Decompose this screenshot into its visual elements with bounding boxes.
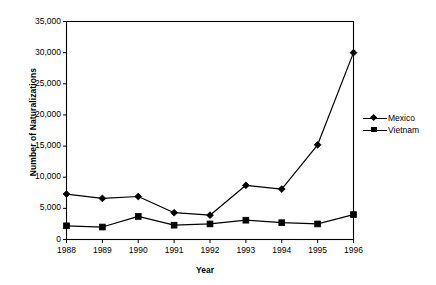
chart-legend: MexicoVietnam	[363, 112, 419, 136]
x-tick-label: 1990	[118, 246, 158, 255]
x-tick-label: 1992	[190, 246, 230, 255]
legend-label: Mexico	[387, 113, 415, 123]
y-tick-label: 10,000	[17, 172, 61, 181]
data-point-square: Vietnam 1996: 4,000	[351, 212, 357, 218]
x-tick-label: 1994	[262, 246, 302, 255]
x-tick-label: 1993	[226, 246, 266, 255]
data-point-square: Vietnam 1992: 2,500	[207, 221, 213, 227]
data-point-square: Vietnam 1995: 2,500	[315, 221, 321, 227]
data-point-diamond: Mexico 1996: 30,000	[350, 49, 357, 56]
naturalizations-line-chart: Number of Naturalizations 05,00010,00015…	[0, 0, 436, 285]
x-tick-label: 1989	[82, 246, 122, 255]
y-tick-label: 35,000	[17, 17, 61, 26]
legend-item-vietnam[interactable]: Vietnam	[363, 124, 419, 136]
series-line-mexico	[67, 53, 354, 216]
legend-label: Vietnam	[387, 125, 419, 135]
x-tick-label: 1988	[47, 246, 87, 255]
data-point-square: Vietnam 1993: 3,100	[243, 217, 249, 223]
data-point-square: Vietnam 1994: 2,700	[279, 220, 285, 226]
data-point-diamond: Mexico 1988: 7,300	[63, 191, 70, 198]
diamond-marker-icon	[370, 113, 377, 120]
x-tick-label: 1996	[334, 246, 374, 255]
diamond-marker-icon	[363, 113, 387, 124]
plot-area: Mexico 1988: 7,300Mexico 1989: 6,600Mexi…	[0, 0, 436, 285]
data-point-square: Vietnam 1988: 2,200	[64, 223, 70, 229]
x-tick-label: 1991	[154, 246, 194, 255]
legend-item-mexico[interactable]: Mexico	[363, 112, 419, 124]
y-tick-label: 0	[17, 235, 61, 244]
data-point-diamond: Mexico 1989: 6,600	[99, 195, 106, 202]
x-axis-title: Year	[55, 265, 355, 275]
data-point-diamond: Mexico 1991: 4,300	[171, 209, 178, 216]
square-marker-icon	[371, 127, 377, 133]
x-tick-label: 1995	[298, 246, 338, 255]
square-marker-icon	[363, 125, 387, 136]
y-tick-label: 15,000	[17, 141, 61, 150]
y-tick-label: 5,000	[17, 203, 61, 212]
series-mexico: Mexico 1988: 7,300Mexico 1989: 6,600Mexi…	[63, 49, 357, 218]
data-point-square: Vietnam 1991: 2,300	[171, 222, 177, 228]
y-tick-label: 30,000	[17, 48, 61, 57]
data-point-diamond: Mexico 1990: 6,900	[135, 193, 142, 200]
data-point-square: Vietnam 1990: 3,700	[135, 214, 141, 220]
data-point-square: Vietnam 1989: 2,000	[99, 224, 105, 230]
plot-frame	[67, 22, 354, 240]
y-tick-label: 20,000	[17, 110, 61, 119]
y-tick-label: 25,000	[17, 79, 61, 88]
